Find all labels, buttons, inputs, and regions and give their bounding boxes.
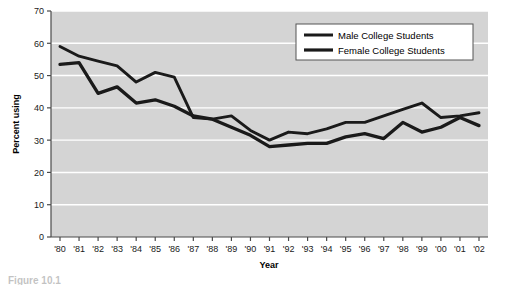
x-tick-label: '84 xyxy=(130,244,142,254)
y-tick-label: 40 xyxy=(34,103,44,113)
x-tick-label: '92 xyxy=(283,244,295,254)
y-tick-label: 70 xyxy=(34,6,44,16)
legend-label-male: Male College Students xyxy=(338,30,434,41)
x-tick-label: '86 xyxy=(168,244,180,254)
x-tick-label: '93 xyxy=(302,244,314,254)
y-tick-label: 10 xyxy=(34,200,44,210)
x-tick-label: '02 xyxy=(473,244,485,254)
x-tick-label: '90 xyxy=(245,244,257,254)
x-tick-label: '91 xyxy=(264,244,276,254)
x-tick-label: '87 xyxy=(187,244,199,254)
figure-caption: Figure 10.1 xyxy=(8,275,61,285)
x-tick-label: '81 xyxy=(73,244,85,254)
x-tick-label: '00 xyxy=(435,244,447,254)
x-tick-label: '95 xyxy=(340,244,352,254)
x-tick-label: '80 xyxy=(54,244,66,254)
y-tick-label: 60 xyxy=(34,39,44,49)
legend-label-female: Female College Students xyxy=(338,45,445,56)
x-tick-label: '98 xyxy=(397,244,409,254)
y-tick-label: 20 xyxy=(34,168,44,178)
y-axis-ticks: 010203040506070 xyxy=(34,6,51,242)
x-tick-label: '94 xyxy=(321,244,333,254)
figure-container: 010203040506070 '80'81'82'83'84'85'86'87… xyxy=(0,0,505,285)
x-tick-label: '96 xyxy=(359,244,371,254)
y-axis-title: Percent using xyxy=(11,94,21,154)
x-axis-ticks: '80'81'82'83'84'85'86'87'88'89'90'91'92'… xyxy=(54,237,485,254)
legend: Male College Students Female College Stu… xyxy=(296,24,473,60)
y-tick-label: 50 xyxy=(34,71,44,81)
x-tick-label: '01 xyxy=(454,244,466,254)
x-tick-label: '83 xyxy=(111,244,123,254)
x-tick-label: '89 xyxy=(226,244,238,254)
x-tick-label: '99 xyxy=(416,244,428,254)
x-tick-label: '85 xyxy=(149,244,161,254)
x-tick-label: '82 xyxy=(92,244,104,254)
x-tick-label: '97 xyxy=(378,244,390,254)
y-tick-label: 0 xyxy=(39,232,44,242)
y-tick-label: 30 xyxy=(34,136,44,146)
x-axis-title: Year xyxy=(259,260,279,270)
x-tick-label: '88 xyxy=(206,244,218,254)
line-chart: 010203040506070 '80'81'82'83'84'85'86'87… xyxy=(0,0,505,285)
